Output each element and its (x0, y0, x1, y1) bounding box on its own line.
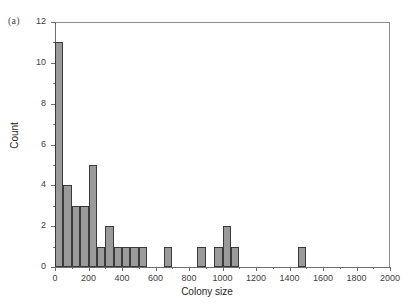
histogram-bar (298, 247, 306, 267)
histogram-bar (197, 247, 205, 267)
y-axis-minor-tick (53, 42, 55, 43)
histogram-bar (63, 185, 71, 267)
x-axis-label: Colony size (0, 286, 414, 297)
x-axis-tick (55, 267, 56, 271)
y-axis-tick (51, 145, 55, 146)
y-axis-tick-label: 4 (22, 179, 46, 189)
histogram-bar (80, 206, 88, 267)
histogram-bar (130, 247, 138, 267)
y-axis-tick-label: 6 (22, 139, 46, 149)
y-axis-label: Count (9, 106, 20, 166)
x-axis-tick (156, 267, 157, 271)
histogram-bar (89, 165, 97, 267)
x-axis-minor-tick (206, 267, 207, 269)
x-axis-tick (89, 267, 90, 271)
y-axis-tick (51, 185, 55, 186)
x-axis-minor-tick (273, 267, 274, 269)
y-axis-tick (51, 63, 55, 64)
y-axis-tick (51, 22, 55, 23)
x-axis-tick (290, 267, 291, 271)
y-axis-tick-label: 12 (22, 16, 46, 26)
y-axis-tick-label: 8 (22, 98, 46, 108)
y-axis-minor-tick (53, 247, 55, 248)
x-axis-minor-tick (105, 267, 106, 269)
y-axis-tick (51, 104, 55, 105)
y-axis-minor-tick (53, 206, 55, 207)
histogram-bar (164, 247, 172, 267)
x-axis-minor-tick (139, 267, 140, 269)
histogram-bar (55, 42, 63, 267)
y-axis-tick (51, 226, 55, 227)
x-axis-tick (122, 267, 123, 271)
x-axis-tick (189, 267, 190, 271)
y-axis-minor-tick (53, 83, 55, 84)
histogram-bar (223, 226, 231, 267)
histogram-bar (139, 247, 147, 267)
x-axis-minor-tick (306, 267, 307, 269)
y-axis-tick (51, 267, 55, 268)
x-axis-tick (390, 267, 391, 271)
histogram-bar (122, 247, 130, 267)
x-axis-tick (256, 267, 257, 271)
plot-area (55, 22, 390, 267)
histogram-bar (105, 226, 113, 267)
y-axis-tick-label: 2 (22, 220, 46, 230)
x-axis-minor-tick (72, 267, 73, 269)
x-axis-minor-tick (172, 267, 173, 269)
y-axis-tick-label: 0 (22, 261, 46, 271)
histogram-bar (214, 247, 222, 267)
panel-label: (a) (8, 15, 20, 26)
y-axis-minor-tick (53, 124, 55, 125)
x-axis-tick (323, 267, 324, 271)
histogram-figure: (a) Colony size Count 020040060080010001… (0, 0, 414, 304)
x-axis-tick (223, 267, 224, 271)
histogram-bar (97, 247, 105, 267)
y-axis-tick-label: 10 (22, 57, 46, 67)
histogram-bar (231, 247, 239, 267)
x-axis-tick-label: 2000 (370, 273, 410, 283)
x-axis-minor-tick (239, 267, 240, 269)
x-axis-minor-tick (373, 267, 374, 269)
x-axis-tick (357, 267, 358, 271)
histogram-bar (72, 206, 80, 267)
y-axis-minor-tick (53, 165, 55, 166)
histogram-bar (114, 247, 122, 267)
x-axis-minor-tick (340, 267, 341, 269)
